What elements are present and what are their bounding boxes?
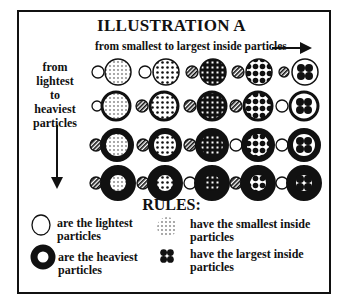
particle-r1c5 xyxy=(279,59,318,85)
rule-text: particles xyxy=(57,230,133,243)
particle-r3c2 xyxy=(137,131,179,159)
particle-r2c2 xyxy=(136,92,178,120)
rule-largest: have the largest inside particles xyxy=(190,248,304,274)
particle-r3c1 xyxy=(90,131,131,159)
particle-r4c2 xyxy=(137,170,178,196)
particle-r4c5 xyxy=(276,170,317,196)
rule-lightest: are the lightest particles xyxy=(57,217,133,243)
rule-text: particles xyxy=(190,231,310,244)
particle-r4c3 xyxy=(184,170,225,196)
rule-heaviest: are the heaviest particles xyxy=(58,251,138,277)
particle-r2c3 xyxy=(184,92,226,120)
fine-dots-icon xyxy=(157,217,177,237)
particle-r3c3 xyxy=(184,131,226,159)
particle-r1c1 xyxy=(92,59,131,85)
particle-r3c5 xyxy=(276,131,318,159)
rule-smallest: have the smallest inside particles xyxy=(190,218,310,244)
particle-r1c4 xyxy=(232,59,272,85)
particle-r2c5 xyxy=(276,92,318,120)
particle-r3c4 xyxy=(230,131,272,159)
rules-title: RULES: xyxy=(0,196,343,214)
particle-r2c1 xyxy=(92,92,130,120)
four-large-dots-icon xyxy=(160,249,174,263)
rule-text: particles xyxy=(58,264,138,277)
thin-ring-icon xyxy=(32,215,50,235)
thick-ring-icon xyxy=(34,248,52,266)
particle-r1c3 xyxy=(186,59,226,85)
particle-r2c4 xyxy=(230,92,272,120)
rule-text: particles xyxy=(190,261,304,274)
particle-r4c4 xyxy=(230,170,271,196)
particle-r1c2 xyxy=(139,59,179,85)
particle-r4c1 xyxy=(90,170,131,196)
